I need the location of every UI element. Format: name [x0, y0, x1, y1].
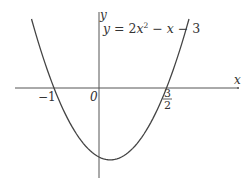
eq-minus: −	[148, 21, 166, 36]
eq-var2: x	[167, 21, 174, 36]
eq-equals: = 2	[110, 21, 136, 36]
origin-label: 0	[90, 90, 98, 104]
eq-rest: − 3	[174, 21, 200, 36]
eq-var1: x	[136, 21, 143, 36]
x-axis-label: x	[234, 73, 241, 87]
x-axis-end-dot	[237, 87, 239, 89]
y-axis-label: y	[99, 8, 107, 22]
equation-label: y = 2x2 − x − 3	[102, 21, 200, 36]
x-intercept-neg1-label: −1	[38, 90, 56, 104]
x-intercept-fraction-denominator: 2	[164, 99, 171, 112]
parabola-graph: y x 0 −1 3 2 y = 2x2 − x − 3	[0, 0, 251, 181]
